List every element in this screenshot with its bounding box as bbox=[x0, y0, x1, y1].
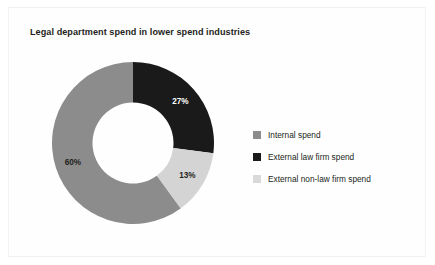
donut-slice-label: 13% bbox=[179, 171, 196, 180]
chart-figure: Legal department spend in lower spend in… bbox=[0, 0, 435, 265]
legend-item-label: External law firm spend bbox=[268, 153, 354, 161]
legend-item[interactable]: External non-law firm spend bbox=[253, 168, 423, 190]
legend-item-label: External non-law firm spend bbox=[268, 175, 371, 183]
chart-title: Legal department spend in lower spend in… bbox=[30, 27, 250, 37]
legend-item[interactable]: Internal spend bbox=[253, 124, 423, 146]
donut-chart: 27%13%60% bbox=[52, 62, 214, 224]
chart-legend: Internal spendExternal law firm spendExt… bbox=[253, 124, 423, 190]
donut-slices bbox=[52, 62, 214, 224]
legend-swatch-icon bbox=[253, 131, 261, 139]
legend-item-label: Internal spend bbox=[268, 131, 321, 139]
donut-chart-svg: 27%13%60% bbox=[52, 62, 214, 224]
donut-slice bbox=[133, 62, 214, 153]
legend-swatch-icon bbox=[253, 153, 261, 161]
donut-slice-label: 27% bbox=[172, 97, 189, 106]
donut-slice-label: 60% bbox=[65, 158, 82, 167]
legend-item[interactable]: External law firm spend bbox=[253, 146, 423, 168]
legend-swatch-icon bbox=[253, 175, 261, 183]
